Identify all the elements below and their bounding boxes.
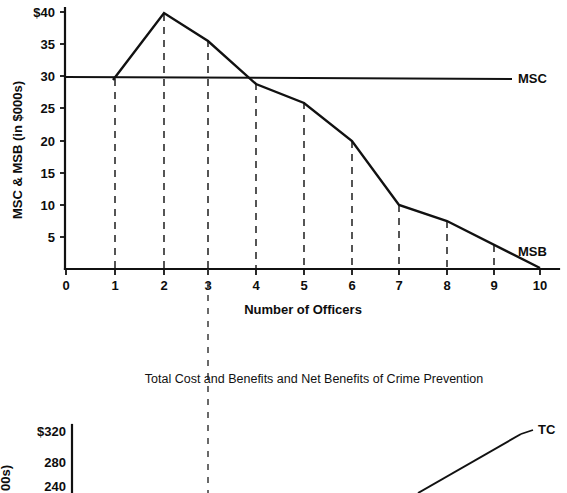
top-chart-xtick-2: 2 xyxy=(160,278,167,293)
top-chart-xtick-6: 6 xyxy=(348,278,355,293)
top-chart-ytick-25: 25 xyxy=(41,101,55,116)
top-chart-ytick-5: 5 xyxy=(48,230,55,245)
top-chart-xtick-5: 5 xyxy=(300,278,307,293)
economics-figure: $40 35 30 25 20 15 10 5 0 1 2 3 4 5 6 7 xyxy=(0,0,567,493)
top-chart-xtick-0: 0 xyxy=(62,278,69,293)
top-chart-y-axis-title: MSC & MSB (in $000s) xyxy=(10,81,25,219)
tc-line xyxy=(418,434,521,493)
top-chart-xtick-9: 9 xyxy=(490,278,497,293)
tc-leader-line xyxy=(521,430,533,434)
top-chart-xtick-7: 7 xyxy=(395,278,402,293)
bottom-chart-ytick-240: 240 xyxy=(44,479,66,493)
msb-curve xyxy=(113,13,540,268)
top-chart-x-axis-title: Number of Officers xyxy=(244,302,362,317)
top-chart-xtick-8: 8 xyxy=(443,278,450,293)
top-chart-xtick-1: 1 xyxy=(111,278,118,293)
top-chart-ytick-35: 35 xyxy=(41,37,55,52)
top-chart-ytick-30: 30 xyxy=(41,69,55,84)
top-chart-ytick-15: 15 xyxy=(41,166,55,181)
msc-line xyxy=(65,77,512,79)
bottom-chart-title: Total Cost and Benefits and Net Benefits… xyxy=(145,372,483,386)
bottom-chart-ytick-320: $320 xyxy=(37,424,66,439)
top-chart-xtick-10: 10 xyxy=(533,278,547,293)
top-chart-xtick-4: 4 xyxy=(252,278,260,293)
top-chart-droplines xyxy=(115,14,494,268)
msb-series-label: MSB xyxy=(518,244,547,259)
top-chart-ytick-40: $40 xyxy=(33,5,55,20)
msc-series-label: MSC xyxy=(518,71,548,86)
top-chart-ytick-10: 10 xyxy=(41,198,55,213)
figure-canvas: $40 35 30 25 20 15 10 5 0 1 2 3 4 5 6 7 xyxy=(0,0,567,493)
bottom-chart-ytick-280: 280 xyxy=(44,455,66,470)
bottom-chart-y-axis-title: 00s) xyxy=(0,465,13,491)
top-chart-ytick-20: 20 xyxy=(41,134,55,149)
tc-series-label: TC xyxy=(538,422,556,437)
